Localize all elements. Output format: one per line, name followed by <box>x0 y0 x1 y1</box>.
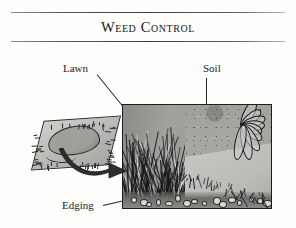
turf-fringe <box>102 124 104 130</box>
pebble <box>220 202 226 207</box>
header-rule-bottom <box>11 41 285 42</box>
pebble <box>238 201 242 205</box>
soil-base-strip <box>123 192 272 208</box>
turf-fringe <box>34 134 38 136</box>
pebble <box>214 198 220 204</box>
turf-fringe <box>62 124 63 129</box>
weed-sprig <box>210 183 211 191</box>
weed-sprig <box>228 182 230 187</box>
callout-pointer-dot-edging <box>157 189 161 193</box>
pebble <box>184 201 190 206</box>
pebble <box>203 202 207 205</box>
callout-label-soil: Soil <box>203 62 221 75</box>
callout-label-edging: Edging <box>62 199 94 212</box>
border-plant <box>219 104 272 145</box>
pebble <box>132 198 137 202</box>
turf-fringe <box>51 162 52 166</box>
pebble <box>157 200 160 205</box>
lawn-edging-photo <box>122 104 272 209</box>
pebble <box>147 203 151 206</box>
turf-fringe <box>51 125 52 130</box>
pebble <box>141 200 147 205</box>
photo-content <box>123 105 271 208</box>
callout-label-lawn: Lawn <box>63 62 88 75</box>
pebble <box>192 200 197 204</box>
turf-fringe <box>33 159 37 160</box>
illustration-page: Weed Control Lawn Soil Edging <box>0 0 296 228</box>
pebble <box>176 196 180 201</box>
turf-fringe <box>69 123 71 127</box>
page-title: Weed Control <box>0 17 296 37</box>
pebble <box>166 202 172 205</box>
header-rule-top <box>11 12 285 13</box>
transfer-arrow-icon <box>58 140 128 184</box>
